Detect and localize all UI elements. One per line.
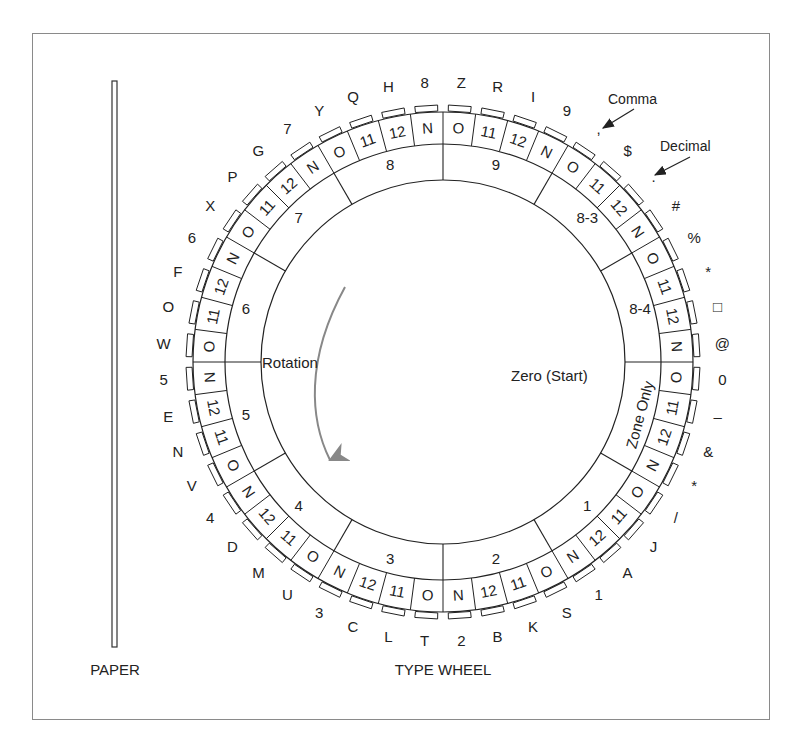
cell-divider — [202, 418, 233, 426]
zone-punch-label: N — [201, 371, 219, 383]
type-character: – — [713, 408, 722, 425]
decimal-arrow-icon — [655, 157, 690, 175]
type-character: B — [493, 628, 503, 645]
type-character: 5 — [159, 371, 167, 388]
sector-label: 6 — [242, 300, 250, 317]
zone-punch-label: N — [642, 457, 662, 474]
sector-label: 2 — [492, 550, 500, 567]
type-character: F — [173, 263, 182, 280]
zone-punch-label: O — [667, 371, 685, 384]
type-slug-tab — [448, 105, 471, 112]
sector-label: 3 — [386, 550, 394, 567]
cell-divider — [410, 114, 414, 146]
zone-punch-label: 11 — [607, 504, 630, 527]
zone-punch-label: O — [627, 482, 648, 501]
sector-divider — [334, 520, 352, 551]
type-character: 3 — [315, 604, 323, 621]
type-character: & — [703, 443, 713, 460]
zone-punch-label: N — [223, 250, 243, 267]
type-character: P — [227, 168, 237, 185]
cell-divider — [212, 445, 242, 457]
zone-punch-label: 11 — [255, 196, 278, 219]
zone-punch-label: 11 — [203, 307, 223, 326]
sector-divider — [534, 173, 552, 204]
zone-punch-label: N — [303, 157, 321, 177]
type-slug-tab — [319, 127, 342, 142]
zone-punch-label: 12 — [277, 174, 301, 198]
type-slug-tab — [663, 463, 678, 486]
cell-divider — [654, 418, 685, 426]
zone-punch-label: O — [421, 586, 434, 604]
zone-punch-label: 11 — [278, 526, 301, 549]
type-slug-tab — [600, 543, 621, 562]
type-character: 6 — [188, 229, 196, 246]
type-slug-tab — [544, 127, 567, 142]
cell-divider — [410, 578, 414, 610]
type-character: D — [227, 538, 238, 555]
cell-divider — [195, 390, 227, 394]
type-character: 2 — [457, 632, 465, 649]
type-wheel: 98-38-4Zone Only12345678OZ11R12IN9O,11$1… — [157, 74, 731, 650]
cell-divider — [378, 573, 386, 604]
type-character: K — [528, 618, 538, 635]
sector-divider — [534, 520, 552, 551]
type-character: G — [253, 142, 265, 159]
type-character: , — [596, 120, 600, 137]
type-character: L — [384, 628, 392, 645]
sector-label: 8 — [386, 156, 394, 173]
zone-punch-label: O — [238, 222, 259, 241]
paper-label: PAPER — [90, 661, 140, 678]
zone-punch-label: N — [422, 119, 434, 137]
type-character: 7 — [283, 120, 291, 137]
zone-punch-label: O — [537, 561, 555, 581]
type-character: N — [172, 443, 183, 460]
sector-label: Zone Only — [622, 379, 656, 451]
type-character: # — [672, 197, 681, 214]
zone-punch-label: N — [452, 586, 464, 604]
zone-punch-label: 12 — [387, 122, 407, 142]
type-character: T — [420, 632, 429, 649]
sector-label: 9 — [492, 156, 500, 173]
type-slug-tab — [382, 108, 405, 118]
zone-punch-label: 12 — [585, 526, 609, 550]
decimal-callout-label: Decimal — [660, 138, 711, 154]
zone-punch-label: 11 — [388, 581, 407, 601]
type-slug-tab — [208, 238, 223, 261]
type-character: * — [691, 477, 697, 494]
rotation-label: Rotation — [262, 354, 318, 371]
zone-punch-label: 11 — [479, 122, 498, 142]
zero-start-label: Zero (Start) — [511, 367, 588, 384]
zone-punch-label: 11 — [358, 129, 378, 150]
sector-divider — [601, 253, 632, 271]
type-character: A — [623, 564, 633, 581]
zone-punch-label: 12 — [663, 306, 683, 326]
zone-punch-label: 12 — [256, 504, 280, 528]
zone-punch-label: O — [200, 340, 218, 353]
zone-punch-label: 11 — [211, 427, 232, 447]
type-character: U — [282, 586, 293, 603]
type-slug-tab — [481, 108, 504, 118]
type-character: @ — [715, 335, 730, 352]
sector-label: 8-3 — [576, 209, 598, 226]
zone-punch-label: N — [538, 142, 555, 162]
type-character: H — [383, 78, 394, 95]
type-slug-tab — [448, 611, 471, 618]
zone-punch-label: 11 — [655, 277, 676, 297]
type-character: 0 — [718, 371, 726, 388]
cell-divider — [471, 114, 475, 146]
zone-punch-label: 12 — [204, 398, 224, 418]
cell-divider — [659, 390, 691, 394]
sector-label: 7 — [295, 209, 303, 226]
type-slug-tab — [242, 519, 261, 540]
type-slug-tab — [663, 238, 678, 261]
zone-punch-label: 12 — [479, 581, 499, 601]
type-character: / — [674, 509, 679, 526]
type-character: I — [531, 88, 535, 105]
type-slug-tab — [382, 606, 405, 616]
type-character: □ — [713, 298, 722, 315]
paper-strip — [112, 81, 117, 647]
zone-punch-label: N — [239, 482, 259, 500]
type-slug-tab — [265, 543, 286, 562]
type-wheel-label: TYPE WHEEL — [395, 661, 492, 678]
cell-divider — [659, 329, 691, 333]
